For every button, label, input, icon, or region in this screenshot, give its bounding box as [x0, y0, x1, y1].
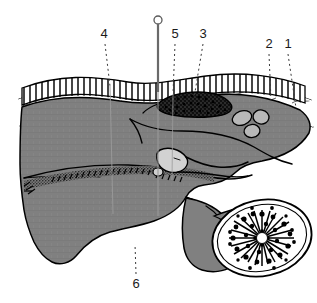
- label-3: 3: [199, 26, 206, 41]
- label-5: 5: [171, 26, 178, 41]
- needle-head-icon[interactable]: [154, 16, 162, 24]
- label-1: 1: [284, 36, 291, 51]
- figure-canvas: 1 2 3 4 5 6: [0, 0, 317, 303]
- node-radiating-core: [228, 206, 296, 270]
- anatomical-figure: 1 2 3 4 5 6: [0, 0, 317, 303]
- label-2: 2: [265, 36, 272, 51]
- label-6: 6: [132, 276, 139, 291]
- label-4: 4: [100, 26, 107, 41]
